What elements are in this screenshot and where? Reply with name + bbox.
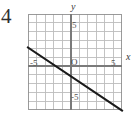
x-tick-label-negative-5: -5 bbox=[30, 59, 38, 68]
problem-number: 4 bbox=[1, 4, 21, 28]
x-tick-label-positive-5: 5 bbox=[111, 59, 116, 68]
y-tick-label-positive-5: 5 bbox=[72, 21, 77, 30]
figure-root: 4 bbox=[0, 0, 139, 117]
y-axis-label: y bbox=[71, 2, 75, 12]
y-tick-label-negative-5: -5 bbox=[71, 93, 79, 102]
origin-label: O bbox=[71, 58, 78, 67]
x-axis-label: x bbox=[126, 52, 130, 62]
